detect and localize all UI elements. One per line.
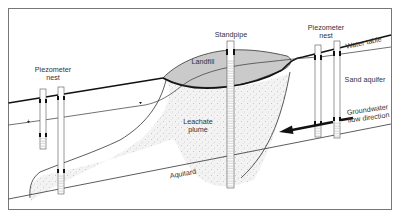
label-line: nest bbox=[302, 32, 350, 40]
standpipe bbox=[226, 41, 235, 188]
label-line: plume bbox=[176, 126, 220, 134]
piezometer-left-shallow bbox=[39, 89, 47, 149]
label-standpipe: Standpipe bbox=[208, 31, 254, 39]
piezometer-right-deep bbox=[333, 41, 341, 138]
piezometer-left-deep bbox=[57, 87, 65, 194]
label-line: Sand aquifer bbox=[340, 76, 390, 84]
label-leachate-plume: Leachate plume bbox=[176, 118, 220, 134]
label-line: Landfill bbox=[183, 58, 223, 66]
label-sand-aquifer: Sand aquifer bbox=[340, 76, 390, 84]
label-line: nest bbox=[30, 74, 76, 82]
label-landfill: Landfill bbox=[183, 58, 223, 66]
label-piezometer-nest-left: Piezometer nest bbox=[30, 66, 76, 82]
label-line: Standpipe bbox=[208, 31, 254, 39]
label-piezometer-nest-right: Piezometer nest bbox=[302, 24, 350, 40]
